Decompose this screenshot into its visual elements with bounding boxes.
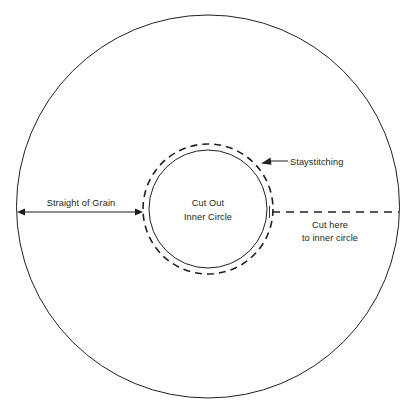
center-label-line1: Cut Out [192, 198, 225, 208]
staystitching-label: Staystitching [290, 157, 343, 167]
cut-here-label-line2: to inner circle [302, 233, 358, 243]
diagram-canvas: Cut Out Inner Circle Staystitching Strai… [0, 0, 414, 413]
straight-of-grain-label: Straight of Grain [47, 198, 116, 208]
cut-here-label-line1: Cut here [312, 220, 348, 230]
center-label-line2: Inner Circle [184, 212, 232, 222]
pattern-diagram: Cut Out Inner Circle Staystitching Strai… [0, 0, 414, 413]
